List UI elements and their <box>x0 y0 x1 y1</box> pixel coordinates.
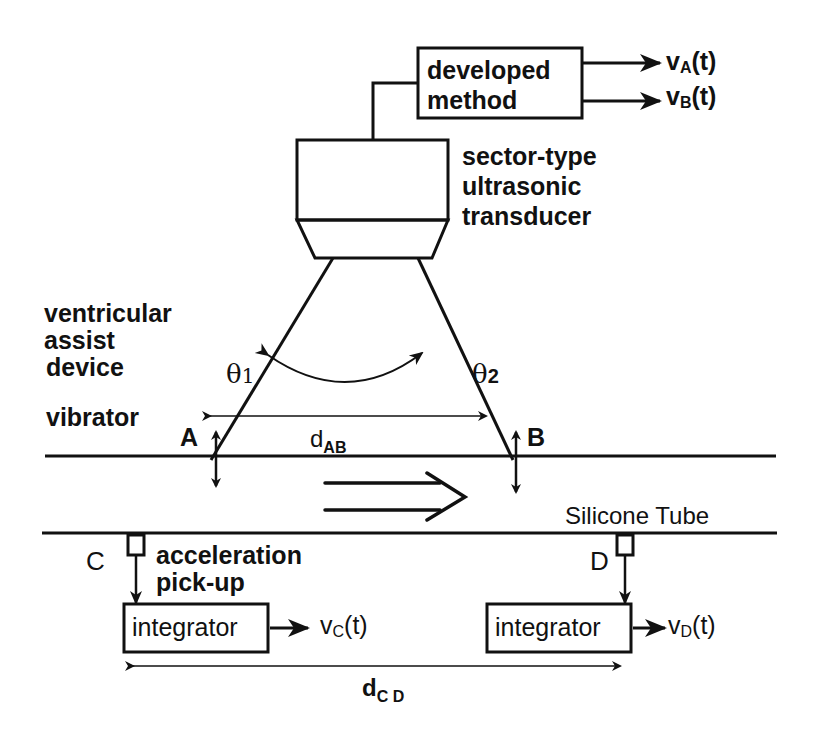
ultrasonic-transducer <box>297 140 448 258</box>
vd-output-label: vD(t) <box>668 611 716 640</box>
pickup-label-line1: acceleration <box>156 541 302 569</box>
beam-right <box>418 258 513 460</box>
vad-label-line1: ventricular <box>44 299 172 327</box>
point-d-label: D <box>590 546 609 576</box>
pickup-d-sensor <box>617 535 633 555</box>
point-c-label: C <box>86 546 105 576</box>
transducer-label-line1: sector-type <box>462 142 597 170</box>
transducer-label-line2: ultrasonic <box>462 172 582 200</box>
transducer-label-line3: transducer <box>462 202 591 230</box>
dcd-label: dC D <box>362 674 404 705</box>
dab-label: dAB <box>310 425 346 456</box>
vad-label-line3: device <box>46 353 124 381</box>
va-output-label: vA(t) <box>666 47 716 76</box>
integrator-c-label: integrator <box>132 613 238 641</box>
flow-direction-icon <box>325 473 465 520</box>
vc-output-label: vC(t) <box>320 611 368 640</box>
integrator-c-block: integrator <box>124 604 268 652</box>
developed-method-block: developed method <box>418 48 582 118</box>
diagram-canvas: developed method vA(t) vB(t) sector-type… <box>0 0 815 735</box>
vad-label-line2: assist <box>44 326 116 354</box>
vibrator-label: vibrator <box>46 403 139 431</box>
integrator-d-block: integrator <box>487 604 631 652</box>
developed-method-label-line1: developed <box>427 56 551 84</box>
point-b-label: B <box>527 423 545 451</box>
point-a-label: A <box>180 423 198 451</box>
silicone-tube-label: Silicone Tube <box>565 502 709 529</box>
theta1-label: θ1 <box>226 359 254 389</box>
transducer-cable <box>373 83 418 140</box>
theta2-label: θ2 <box>472 359 499 389</box>
developed-method-label-line2: method <box>427 86 517 114</box>
vb-output-label: vB(t) <box>666 82 716 111</box>
integrator-d-label: integrator <box>495 613 601 641</box>
sector-angle-arc <box>268 353 422 382</box>
pickup-label-line2: pick-up <box>156 568 245 596</box>
pickup-c-sensor <box>128 535 144 555</box>
